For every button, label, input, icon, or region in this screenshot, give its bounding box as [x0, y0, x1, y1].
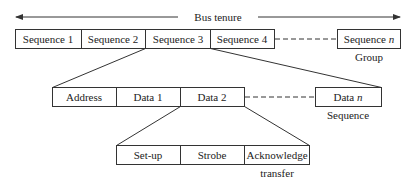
- transfer-caption: transfer: [260, 167, 294, 179]
- sequence-n-label: Sequence n: [344, 33, 395, 45]
- data-n-prefix: Data: [333, 91, 357, 103]
- group-row: Sequence 1 Sequence 2 Sequence 3 Sequenc…: [16, 30, 401, 64]
- sequence-n-prefix: Sequence: [344, 33, 389, 45]
- acknowledge-label: Acknowledge: [246, 149, 307, 161]
- sequence-1-label: Sequence 1: [23, 33, 73, 45]
- data-n-var: n: [357, 91, 363, 103]
- bus-hierarchy-diagram: Bus tenure Sequence 1 Sequence 2 Sequenc…: [0, 0, 413, 186]
- sequence-2-label: Sequence 2: [88, 33, 138, 45]
- data-n-label: Data n: [333, 91, 363, 103]
- expand-line-left-2: [117, 107, 181, 146]
- strobe-label: Strobe: [198, 149, 227, 161]
- address-label: Address: [66, 91, 102, 103]
- data-2-label: Data 2: [197, 91, 226, 103]
- expand-line-left-1: [53, 49, 146, 88]
- group-caption: Group: [355, 51, 384, 63]
- sequence-n-var: n: [389, 33, 395, 45]
- sequence-caption: Sequence: [327, 109, 369, 121]
- bus-tenure-label: Bus tenure: [194, 11, 241, 23]
- expand-line-right-2: [245, 107, 310, 146]
- sequence-row: Address Data 1 Data 2 Data n Sequence: [53, 88, 382, 122]
- setup-label: Set-up: [134, 149, 163, 161]
- sequence-4-label: Sequence 4: [217, 33, 268, 45]
- sequence-3-label: Sequence 3: [153, 33, 204, 45]
- transfer-row: Set-up Strobe Acknowledge transfer: [117, 146, 310, 180]
- data-1-label: Data 1: [133, 91, 162, 103]
